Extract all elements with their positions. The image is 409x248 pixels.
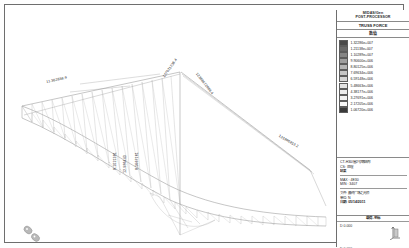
legend-swatch [339,107,348,113]
axis-top-value: D 0.000 [340,224,352,228]
axis-bottom-value: D 0.000 [337,240,409,248]
force-label: 12.986443 [123,155,127,173]
legend-swatch [339,46,348,52]
divider [340,175,407,176]
legend-value: 1.10289e+007 [351,52,373,58]
legend-value: 3.27691e+006 [351,95,373,101]
legend-swatch [339,101,348,107]
legend-value: 7.69634e+006 [351,70,373,76]
legend-value: 5.48663e+006 [351,83,373,89]
truss-force-diagram[interactable]: 11.362838.9 127021736.4 12388672889.4 13… [10,10,336,247]
legend: 1.32286e+007 1.21138e+007 1.10289e+007 9… [337,38,409,115]
legend-swatch [339,76,348,82]
force-label: 8.1021381 [113,152,117,170]
legend-value: 1.21138e+007 [351,46,373,52]
min-value: MIN : 3407 [340,182,407,187]
page-frame: 11.362838.9 127021736.4 12388672889.4 13… [4,4,404,243]
side-panel: MIDAS/Gen POST-PROCESSOR TRUSS FORCE 数值 … [336,10,409,247]
legend-value: 4.38177e+006 [351,89,373,95]
legend-swatch [339,64,348,70]
result-type-header: TRUSS FORCE [337,22,409,30]
legend-swatch [339,95,348,101]
axis-box: 载荷-坐标 D 0.000 [337,215,409,248]
legend-value: 1.32286e+007 [351,40,373,46]
legend-swatch [339,40,348,46]
legend-swatch [339,58,348,64]
watermark-logo-icon [20,222,46,247]
truss-svg [10,10,336,247]
screenshot-root: 11.362838.9 127021736.4 12388672889.4 13… [0,0,409,248]
legend-value: 8.80125e+006 [351,64,373,70]
legend-value: 9.90600e+006 [351,58,373,64]
legend-value: 1.06720e+006 [351,107,373,113]
legend-swatch [339,52,348,58]
legend-heading: 数值 [337,30,409,38]
divider [340,188,407,189]
legend-value: 6.59148e+006 [351,76,373,82]
axis-triad-icon [389,224,403,240]
result-label: 结果 [340,169,407,174]
legend-row: 1.06720e+006 [339,107,408,113]
module-name: POST-PROCESSOR [337,15,409,19]
legend-swatch [339,70,348,76]
legend-swatch [339,83,348,89]
force-label: 8.5667161 [135,152,139,170]
info-panel: CT-H30/屋2号钢结构 CS: 处理 结果 MAX : 4E30 MIN :… [337,157,409,205]
legend-swatch [339,89,348,95]
title-block: MIDAS/Gen POST-PROCESSOR [337,10,409,22]
legend-value: 2.17205e+006 [351,101,373,107]
date-label: 日期: 05/14/2011 [340,200,407,205]
